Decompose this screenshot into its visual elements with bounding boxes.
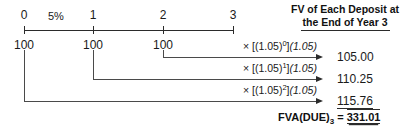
timeline-tick-1 xyxy=(93,26,94,34)
arrowhead-row-1 xyxy=(316,54,323,60)
column-header: FV of Each Deposit at the End of Year 3 xyxy=(286,3,404,31)
timeline-tick-0 xyxy=(24,26,25,34)
column-header-line-1: FV of Each Deposit at xyxy=(291,3,399,15)
factor-expression-row-3: × [(1.05)2](1.05) xyxy=(243,85,317,96)
factor-prefix-row-2: × [(1.05) xyxy=(243,62,282,74)
connector-vertical-row-3 xyxy=(24,50,25,102)
period-label-0: 0 xyxy=(12,9,36,21)
period-label-1: 1 xyxy=(81,9,105,21)
total-amount: 331.01 xyxy=(347,109,381,124)
fv-value-row-1: 105.00 xyxy=(337,51,374,63)
period-label-3: 3 xyxy=(221,9,245,21)
connector-horizontal-row-3 xyxy=(24,101,316,102)
factor-prefix-row-3: × [(1.05) xyxy=(243,84,282,96)
total-row: FVA(DUE)3 = 331.01 xyxy=(278,109,380,124)
factor-prefix-row-1: × [(1.05) xyxy=(243,40,282,52)
connector-horizontal-row-2 xyxy=(93,79,316,80)
factor-expression-row-2: × [(1.05)1](1.05) xyxy=(243,63,317,74)
connector-vertical-row-2 xyxy=(93,50,94,80)
fv-value-row-3: 115.76 xyxy=(337,95,373,109)
arrowhead-row-2 xyxy=(316,76,323,82)
fv-value-row-2: 110.25 xyxy=(337,73,373,85)
total-equals: = xyxy=(334,111,347,123)
factor-italic-row-3: (1.05) xyxy=(290,84,317,96)
factor-italic-row-2: (1.05) xyxy=(290,62,317,74)
interest-rate-label: 5% xyxy=(48,10,64,22)
timeline-axis xyxy=(24,30,233,31)
column-header-line-2: the End of Year 3 xyxy=(301,16,390,31)
factor-italic-row-1: (1.05) xyxy=(290,40,317,52)
connector-horizontal-row-1 xyxy=(163,57,316,58)
timeline-tick-3 xyxy=(233,26,234,34)
total-label: FVA(DUE) xyxy=(278,111,330,123)
factor-expression-row-1: × [(1.05)0](1.05) xyxy=(243,41,317,52)
arrowhead-row-3 xyxy=(316,98,323,104)
fv-annuity-due-timeline-figure: 0 1 2 3 5% 100 100 100 FV of Each Deposi… xyxy=(0,0,408,129)
period-label-2: 2 xyxy=(151,9,175,21)
timeline-tick-2 xyxy=(163,26,164,34)
